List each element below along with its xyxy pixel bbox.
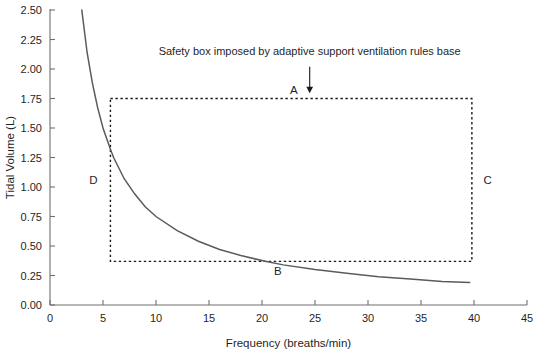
y-tick-label: 0.75	[21, 211, 42, 223]
safety-box-label-a: A	[290, 84, 298, 96]
y-tick-label: 0.25	[21, 270, 42, 282]
x-tick-label: 30	[362, 312, 374, 324]
y-tick-label: 1.75	[21, 93, 42, 105]
y-tick-label: 0.50	[21, 240, 42, 252]
y-tick-label: 2.25	[21, 34, 42, 46]
y-axis-title: Tidal Volume (L)	[4, 116, 16, 199]
y-tick-label: 1.50	[21, 122, 42, 134]
x-tick-label: 40	[468, 312, 480, 324]
y-tick-label: 1.00	[21, 181, 42, 193]
y-tick-label: 2.00	[21, 63, 42, 75]
y-tick-label: 1.25	[21, 152, 42, 164]
y-tick-label: 2.50	[21, 4, 42, 16]
x-tick-label: 5	[100, 312, 106, 324]
x-tick-label: 0	[47, 312, 53, 324]
x-tick-label: 25	[309, 312, 321, 324]
x-tick-label: 45	[521, 312, 533, 324]
x-tick-label: 15	[203, 312, 215, 324]
tidal-volume-frequency-chart: 0.000.250.500.751.001.251.501.752.002.25…	[0, 0, 540, 356]
callout-text: Safety box imposed by adaptive support v…	[159, 45, 461, 57]
safety-box-label-c: C	[484, 174, 492, 186]
safety-box-label-b: B	[274, 265, 282, 277]
x-tick-label: 20	[256, 312, 268, 324]
y-tick-label: 0.00	[21, 299, 42, 311]
x-tick-label: 10	[150, 312, 162, 324]
x-tick-label: 35	[415, 312, 427, 324]
safety-box-label-d: D	[89, 174, 97, 186]
chart-container: 0.000.250.500.751.001.251.501.752.002.25…	[0, 0, 540, 356]
x-axis-title: Frequency (breaths/min)	[226, 337, 351, 349]
